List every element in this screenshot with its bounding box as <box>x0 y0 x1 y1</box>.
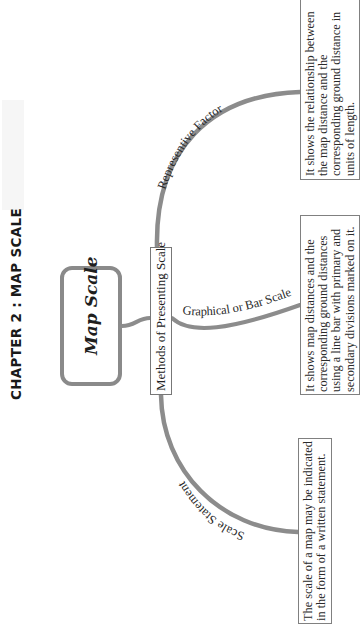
root-hub-connector <box>122 318 150 326</box>
branch-scale-statement <box>161 395 298 532</box>
branch-representive-factor <box>157 92 300 247</box>
branch-label-scale-statement: Scale Statement <box>174 478 246 543</box>
description-graphical: It shows map distances and the correspon… <box>304 216 357 392</box>
hub-node-label: Methods of Presenting Scale <box>152 247 170 391</box>
description-scale-statement: The scale of a map may be indicated in t… <box>302 435 328 621</box>
root-node-label: Map Scale <box>79 256 103 355</box>
hub-node-label-container: Methods of Presenting Scale <box>152 391 296 409</box>
description-representive-factor: It shows the relationship between the ma… <box>304 0 357 176</box>
description-container-scale-statement: The scale of a map may be indicated in t… <box>302 621 362 628</box>
branch-label-representive-factor: Representive Factor <box>155 101 226 191</box>
